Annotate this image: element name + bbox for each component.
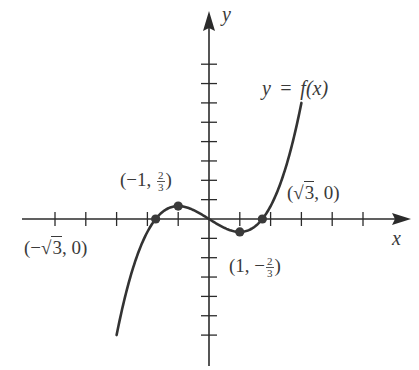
point-label-local-max: (−1, 23) (120, 170, 172, 193)
fraction: 23 (157, 170, 165, 193)
sqrt-symbol: √3 (293, 183, 314, 202)
point-label-positive-root-close: , 0) (314, 182, 339, 203)
y-axis-arrow-icon (203, 11, 215, 31)
point-label-local-min: (1, −23) (229, 256, 281, 279)
point-label-local-min-close: ) (275, 255, 281, 276)
point-label-local-max-open: (−1, (120, 169, 156, 190)
fraction: 23 (266, 256, 274, 279)
point-label-negative-root-open: (− (24, 237, 41, 258)
denominator: 3 (157, 182, 165, 193)
point-label-negative-root: (−√3, 0) (24, 238, 87, 257)
y-axis-label: y (222, 4, 231, 24)
marked-point (235, 227, 244, 236)
point-label-local-min-open: (1, − (229, 255, 265, 276)
point-label-positive-root: (√3, 0) (287, 183, 340, 202)
sqrt-symbol: √3 (41, 238, 62, 257)
function-label: y = f(x) (262, 78, 328, 98)
point-label-negative-root-close: , 0) (62, 237, 87, 258)
x-axis-label: x (392, 228, 401, 248)
radicand: 3 (304, 181, 315, 203)
marked-point (151, 214, 160, 223)
denominator: 3 (266, 268, 274, 279)
point-label-local-max-close: ) (166, 169, 172, 190)
radicand: 3 (51, 236, 62, 258)
function-plot (0, 0, 419, 370)
marked-point (258, 214, 267, 223)
marked-point (174, 201, 183, 210)
